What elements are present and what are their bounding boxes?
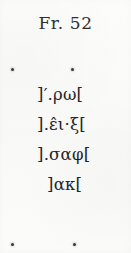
fragment-heading: Fr. 52 — [0, 13, 131, 33]
registration-dot-bottom-left — [11, 243, 14, 246]
registration-dot-bottom-right — [73, 243, 76, 246]
fragment-page: Fr. 52 ]′.ρω[ ].ε̂ι·ξ[ ].σαφ[ ]ακ[ — [0, 0, 131, 253]
transcription-line-3: ].σαφ[ — [0, 140, 131, 170]
transcription-block: ]′.ρω[ ].ε̂ι·ξ[ ].σαφ[ ]ακ[ — [0, 80, 131, 200]
transcription-line-4: ]ακ[ — [0, 170, 131, 200]
registration-dot-top-right — [71, 68, 74, 71]
transcription-line-2: ].ε̂ι·ξ[ — [0, 110, 131, 140]
transcription-line-1: ]′.ρω[ — [0, 80, 131, 110]
registration-dot-top-left — [11, 68, 14, 71]
